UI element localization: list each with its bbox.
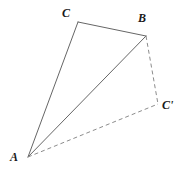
geometry-figure: C B C' A — [0, 0, 184, 173]
segment-A-C — [28, 22, 78, 157]
segment-C-B — [78, 22, 146, 36]
segment-A-B — [28, 36, 146, 157]
vertex-label-a: A — [10, 151, 18, 163]
vertex-label-b: B — [138, 12, 146, 24]
segment-A-Cprime — [28, 104, 158, 157]
segment-B-Cprime — [146, 36, 158, 104]
vertex-label-c-prime: C' — [162, 99, 173, 111]
figure-canvas — [0, 0, 184, 173]
vertex-label-c: C — [62, 7, 70, 19]
